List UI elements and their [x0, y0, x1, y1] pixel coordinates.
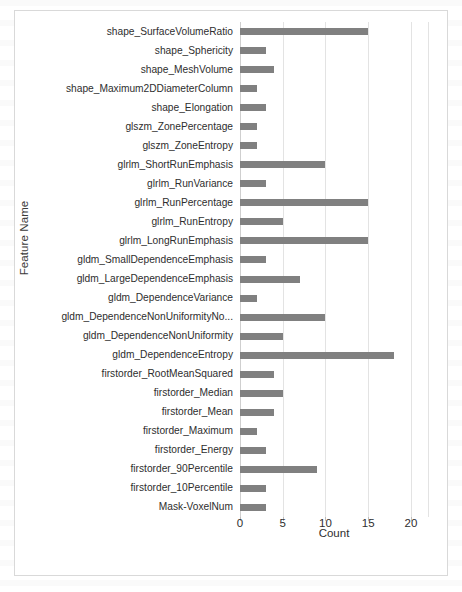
- bar: [240, 314, 325, 321]
- y-axis-tick-label: firstorder_Energy: [20, 444, 236, 456]
- x-gridline: [411, 22, 412, 517]
- bar: [240, 199, 368, 206]
- bar: [240, 276, 300, 283]
- y-axis-tick-label: glrlm_LongRunEmphasis: [20, 235, 236, 247]
- bar: [240, 85, 257, 92]
- y-axis-tick-label: Mask-VoxelNum: [20, 501, 236, 513]
- y-axis-tick-label: firstorder_Mean: [20, 406, 236, 418]
- bar: [240, 447, 266, 454]
- bar: [240, 466, 317, 473]
- y-axis-tick-label: shape_SurfaceVolumeRatio: [20, 26, 236, 38]
- bar: [240, 390, 283, 397]
- x-gridline: [325, 22, 326, 517]
- bar: [240, 504, 266, 511]
- y-axis-tick-label: gldm_SmallDependenceEmphasis: [20, 254, 236, 266]
- bar: [240, 142, 257, 149]
- y-axis-tick-label: shape_Elongation: [20, 102, 236, 114]
- plot-area: [240, 22, 428, 517]
- y-axis-tick-label: firstorder_RootMeanSquared: [20, 368, 236, 380]
- bar: [240, 123, 257, 130]
- y-axis-tick-label: glrlm_RunEntropy: [20, 216, 236, 228]
- y-axis-tick-label: gldm_DependenceEntropy: [20, 349, 236, 361]
- bar: [240, 218, 283, 225]
- y-axis-tick-label: gldm_DependenceNonUniformity: [20, 330, 236, 342]
- bar: [240, 428, 257, 435]
- y-axis-tick-label: glrlm_ShortRunEmphasis: [20, 159, 236, 171]
- y-axis-tick-label: glszm_ZoneEntropy: [20, 140, 236, 152]
- x-gridline: [368, 22, 369, 517]
- bar: [240, 352, 394, 359]
- bar: [240, 333, 283, 340]
- bar: [240, 256, 266, 263]
- y-axis-tick-label: glszm_ZonePercentage: [20, 121, 236, 133]
- bar: [240, 104, 266, 111]
- y-axis-tick-label: firstorder_Median: [20, 387, 236, 399]
- y-axis-tick-label: glrlm_RunVariance: [20, 178, 236, 190]
- y-axis-tick-label: firstorder_10Percentile: [20, 482, 236, 494]
- y-axis-tick-label: shape_MeshVolume: [20, 64, 236, 76]
- y-axis-line: [240, 22, 241, 517]
- y-axis-tick-labels: shape_SurfaceVolumeRatioshape_Sphericity…: [20, 22, 236, 517]
- bar: [240, 47, 266, 54]
- y-axis-tick-label: gldm_DependenceVariance: [20, 292, 236, 304]
- y-axis-tick-label: gldm_DependenceNonUniformityNo...: [20, 311, 236, 323]
- bar: [240, 371, 274, 378]
- bar: [240, 180, 266, 187]
- x-axis-title: Count: [240, 527, 428, 539]
- bar: [240, 66, 274, 73]
- y-axis-tick-label: glrlm_RunPercentage: [20, 197, 236, 209]
- y-axis-tick-label: shape_Sphericity: [20, 45, 236, 57]
- y-axis-tick-label: firstorder_90Percentile: [20, 463, 236, 475]
- bar: [240, 28, 368, 35]
- y-axis-tick-label: firstorder_Maximum: [20, 425, 236, 437]
- x-gridline: [283, 22, 284, 517]
- bar: [240, 409, 274, 416]
- bar: [240, 161, 325, 168]
- x-gridline: [428, 22, 429, 517]
- bar: [240, 485, 266, 492]
- bar-chart: Feature Name shape_SurfaceVolumeRatiosha…: [0, 0, 462, 592]
- y-axis-tick-label: gldm_LargeDependenceEmphasis: [20, 273, 236, 285]
- bar: [240, 237, 368, 244]
- y-axis-tick-label: shape_Maximum2DDiameterColumn: [20, 83, 236, 95]
- bar: [240, 295, 257, 302]
